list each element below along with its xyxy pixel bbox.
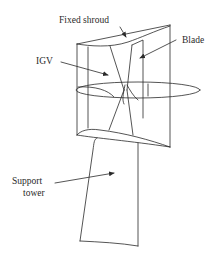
leader-arrows xyxy=(55,27,176,183)
blade-arrow xyxy=(140,40,176,58)
support-tower-label-line1: Support xyxy=(12,176,42,186)
blade-geometry xyxy=(109,45,138,135)
igv-arrow xyxy=(61,62,108,75)
hub-ellipse xyxy=(76,82,200,98)
support-tower-label-line2: tower xyxy=(23,188,45,198)
support-tower-arrow xyxy=(55,173,114,183)
shrouded-turbine-diagram: Fixed shroud Blade IGV Support tower xyxy=(0,0,217,261)
igv-label: IGV xyxy=(36,56,53,66)
support-tower xyxy=(80,138,138,246)
blade-label: Blade xyxy=(182,35,204,45)
fixed-shroud xyxy=(77,25,170,147)
fixed-shroud-label: Fixed shroud xyxy=(59,15,109,25)
fixed-shroud-arrow xyxy=(120,27,126,37)
